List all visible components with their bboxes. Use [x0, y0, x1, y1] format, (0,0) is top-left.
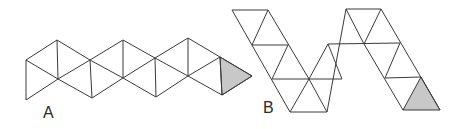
figure-a-top-edge — [26, 38, 252, 76]
figure-b-shaded-triangle — [403, 77, 440, 110]
figure-a-net — [26, 38, 252, 100]
figure-a-shaded-triangle — [220, 57, 252, 95]
diagram-canvas — [0, 0, 464, 129]
figure-b-label: B — [263, 100, 274, 116]
figure-b-net — [232, 9, 440, 112]
figure-a-label: A — [43, 105, 54, 121]
figure-a-lower-edge — [26, 76, 252, 100]
